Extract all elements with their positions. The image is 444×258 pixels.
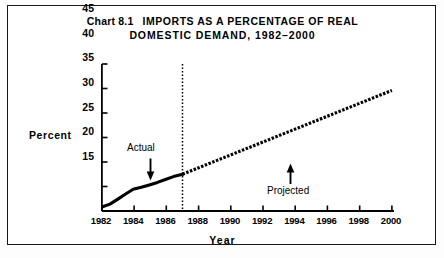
y-tick-label-45: 45 — [72, 3, 94, 13]
chart-canvas — [101, 62, 409, 214]
x-tick-label-1986: 1986 — [148, 216, 182, 226]
chart-number: Chart 8.1 — [87, 15, 134, 27]
scanned-page: Chart 8.1IMPORTS AS A PERCENTAGE OF REAL… — [0, 0, 444, 258]
x-axis-title: Year — [8, 234, 437, 246]
actual-arrow-icon — [147, 159, 155, 181]
x-tick-label-1996: 1996 — [310, 216, 344, 226]
x-tick-label-1982: 1982 — [84, 216, 118, 226]
annotation-projected: Projected — [267, 185, 309, 196]
y-tick-label-35: 35 — [72, 52, 94, 62]
y-axis-title: Percent — [29, 129, 72, 141]
plot-area: Actual Projected — [101, 62, 409, 212]
y-tick-label-40: 40 — [72, 28, 94, 38]
y-tick-label-30: 30 — [72, 77, 94, 87]
chart-title-line-1: Chart 8.1IMPORTS AS A PERCENTAGE OF REAL — [8, 15, 437, 29]
x-tick-label-1992: 1992 — [245, 216, 279, 226]
x-tick-label-1994: 1994 — [277, 216, 311, 226]
series-actual — [102, 174, 183, 207]
x-tick-label-2000: 2000 — [374, 216, 408, 226]
x-tick-label-1998: 1998 — [342, 216, 376, 226]
annotation-actual: Actual — [127, 142, 155, 153]
x-tick-label-1988: 1988 — [181, 216, 215, 226]
y-tick-label-15: 15 — [72, 151, 94, 161]
chart-title-text-1: IMPORTS AS A PERCENTAGE OF REAL — [142, 15, 358, 27]
chart-frame: Chart 8.1IMPORTS AS A PERCENTAGE OF REAL… — [7, 5, 436, 245]
series-projected — [183, 90, 392, 174]
projected-arrow-icon — [287, 164, 295, 185]
x-tick-label-1990: 1990 — [213, 216, 247, 226]
y-tick-label-20: 20 — [72, 126, 94, 136]
y-tick-label-25: 25 — [72, 102, 94, 112]
x-tick-label-1984: 1984 — [116, 216, 150, 226]
